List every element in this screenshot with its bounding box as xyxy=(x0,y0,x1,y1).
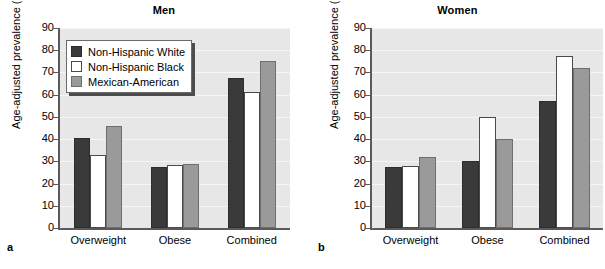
bar-combined-mexican-american xyxy=(573,68,590,228)
bar-combined-mexican-american xyxy=(260,61,276,228)
y-axis-tick-label: 60 xyxy=(340,88,366,100)
panel-title-men: Men xyxy=(0,4,302,16)
bars xyxy=(449,28,526,228)
bar-group-combined xyxy=(213,28,290,228)
y-axis-tick-label: 20 xyxy=(28,177,54,189)
y-axis-tick-mark xyxy=(365,184,370,185)
bar-overweight-non-hispanic-black xyxy=(90,155,106,228)
bar-combined-non-hispanic-black xyxy=(244,92,260,228)
legend-label-non-hispanic-black: Non-Hispanic Black xyxy=(88,61,184,73)
bar-overweight-mexican-american xyxy=(106,126,122,228)
y-axis-tick-label: 0 xyxy=(28,221,54,233)
x-axis-label-overweight: Overweight xyxy=(60,234,137,246)
legend-item: Non-Hispanic Black xyxy=(71,59,185,74)
y-axis-tick-label: 60 xyxy=(28,88,54,100)
bar-overweight-non-hispanic-white xyxy=(385,167,402,228)
bar-obese-non-hispanic-black xyxy=(167,165,183,228)
y-axis-tick-label: 50 xyxy=(28,110,54,122)
y-axis-tick-label: 90 xyxy=(340,21,366,33)
y-axis-tick-mark xyxy=(365,72,370,73)
x-axis-line-women xyxy=(370,228,603,230)
y-axis-tick-mark xyxy=(53,184,58,185)
legend-swatch-non-hispanic-white xyxy=(71,46,82,57)
y-axis-tick-label: 10 xyxy=(28,199,54,211)
y-axis-tick-label: 80 xyxy=(28,43,54,55)
y-axis-title-men: Age-adjusted prevalence (%) xyxy=(10,0,22,158)
legend-label-non-hispanic-white: Non-Hispanic White xyxy=(88,46,185,58)
legend-swatch-mexican-american xyxy=(71,76,82,87)
y-axis-tick-label: 90 xyxy=(28,21,54,33)
y-axis-tick-mark xyxy=(365,139,370,140)
bar-obese-non-hispanic-black xyxy=(479,117,496,228)
y-axis-title-women: Age-adjusted prevalence (%) xyxy=(328,0,340,158)
panel-letter-a: a xyxy=(7,241,13,253)
y-axis-tick-label: 80 xyxy=(340,43,366,55)
bar-overweight-mexican-american xyxy=(419,157,436,228)
y-axis-tick-mark xyxy=(53,139,58,140)
bar-obese-non-hispanic-white xyxy=(462,161,479,228)
y-axis-tick-label: 30 xyxy=(340,154,366,166)
y-axis-tick-mark xyxy=(53,72,58,73)
y-axis-tick-mark xyxy=(53,117,58,118)
bar-obese-mexican-american xyxy=(496,139,513,228)
bar-group-overweight xyxy=(372,28,449,228)
bar-combined-non-hispanic-white xyxy=(539,101,556,228)
y-axis-tick-mark xyxy=(53,50,58,51)
y-axis-tick-label: 0 xyxy=(340,221,366,233)
y-axis-tick-label: 70 xyxy=(340,65,366,77)
x-axis-label-overweight: Overweight xyxy=(372,234,449,246)
panel-title-women: Women xyxy=(300,4,605,16)
y-axis-tick-label: 50 xyxy=(340,110,366,122)
bar-overweight-non-hispanic-black xyxy=(402,166,419,228)
y-axis-tick-mark xyxy=(53,28,58,29)
bars xyxy=(526,28,603,228)
legend-item: Non-Hispanic White xyxy=(71,44,185,59)
y-axis-tick-label: 10 xyxy=(340,199,366,211)
plot-area-women xyxy=(372,28,603,228)
bar-combined-non-hispanic-black xyxy=(556,56,573,228)
y-axis-tick-mark xyxy=(53,161,58,162)
x-axis-label-obese: Obese xyxy=(137,234,214,246)
bar-obese-mexican-american xyxy=(183,164,199,228)
y-axis-tick-label: 20 xyxy=(340,177,366,189)
bars xyxy=(372,28,449,228)
bar-overweight-non-hispanic-white xyxy=(74,138,90,228)
y-axis-tick-mark xyxy=(365,228,370,229)
panel-men: Men Age-adjusted prevalence (%) a Non-Hi… xyxy=(0,0,302,269)
y-axis-tick-mark xyxy=(53,228,58,229)
x-axis-label-combined: Combined xyxy=(526,234,603,246)
y-axis-tick-label: 70 xyxy=(28,65,54,77)
y-axis-tick-mark xyxy=(53,206,58,207)
legend-label-mexican-american: Mexican-American xyxy=(88,76,179,88)
panel-women: Women Age-adjusted prevalence (%) b 0102… xyxy=(300,0,605,269)
bar-group-obese xyxy=(449,28,526,228)
x-axis-label-obese: Obese xyxy=(449,234,526,246)
bar-combined-non-hispanic-white xyxy=(228,78,244,228)
chart-legend: Non-Hispanic White Non-Hispanic Black Me… xyxy=(66,40,192,93)
y-axis-tick-label: 40 xyxy=(340,132,366,144)
bar-obese-non-hispanic-white xyxy=(151,167,167,228)
y-axis-tick-mark xyxy=(365,50,370,51)
y-axis-tick-mark xyxy=(365,28,370,29)
legend-item: Mexican-American xyxy=(71,74,185,89)
y-axis-tick-mark xyxy=(365,95,370,96)
x-axis-label-combined: Combined xyxy=(213,234,290,246)
y-axis-tick-mark xyxy=(365,161,370,162)
bar-groups-women xyxy=(372,28,603,228)
y-axis-tick-mark xyxy=(365,206,370,207)
legend-swatch-non-hispanic-black xyxy=(71,61,82,72)
y-axis-tick-mark xyxy=(365,117,370,118)
panel-letter-b: b xyxy=(318,241,325,253)
x-axis-line-men xyxy=(58,228,290,230)
y-axis-tick-mark xyxy=(53,95,58,96)
bar-group-combined xyxy=(526,28,603,228)
figure-grouped-bar-charts: Men Age-adjusted prevalence (%) a Non-Hi… xyxy=(0,0,605,269)
bars xyxy=(213,28,290,228)
y-axis-tick-label: 30 xyxy=(28,154,54,166)
y-axis-tick-label: 40 xyxy=(28,132,54,144)
